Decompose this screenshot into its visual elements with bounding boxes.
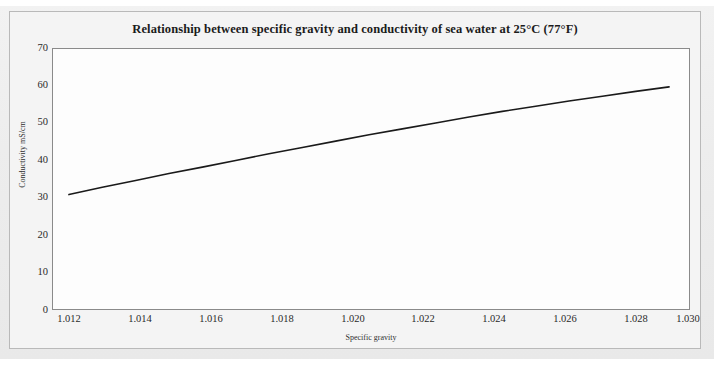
x-tick-label-1024: 1.024 bbox=[464, 314, 524, 325]
x-axis-title: Specific gravity bbox=[52, 333, 690, 342]
y-tick-label-30: 30 bbox=[8, 192, 48, 203]
x-tick-label-1018: 1.018 bbox=[252, 314, 312, 325]
x-tick-label-1014: 1.014 bbox=[110, 314, 170, 325]
y-tick-label-70: 70 bbox=[8, 43, 48, 54]
y-tick-label-50: 50 bbox=[8, 117, 48, 128]
x-tick-label-1028: 1.028 bbox=[606, 314, 666, 325]
x-tick-label-1026: 1.026 bbox=[535, 314, 595, 325]
plot-svg bbox=[53, 49, 689, 309]
data-series-line bbox=[69, 87, 669, 195]
y-tick-label-20: 20 bbox=[8, 230, 48, 241]
y-tick-label-40: 40 bbox=[8, 155, 48, 166]
y-tick-label-10: 10 bbox=[8, 267, 48, 278]
chart-title: Relationship between specific gravity an… bbox=[9, 22, 701, 37]
y-tick-label-60: 60 bbox=[8, 80, 48, 91]
x-tick-label-1022: 1.022 bbox=[393, 314, 453, 325]
x-tick-label-1012: 1.012 bbox=[39, 314, 99, 325]
y-axis-title: Conductivity mS/cm bbox=[18, 100, 27, 210]
x-tick-label-1016: 1.016 bbox=[181, 314, 241, 325]
plot-area bbox=[52, 48, 690, 310]
x-tick-label-1020: 1.020 bbox=[323, 314, 383, 325]
x-tick-label-1030: 1.030 bbox=[658, 314, 714, 325]
figure-container: Relationship between specific gravity an… bbox=[0, 0, 714, 365]
